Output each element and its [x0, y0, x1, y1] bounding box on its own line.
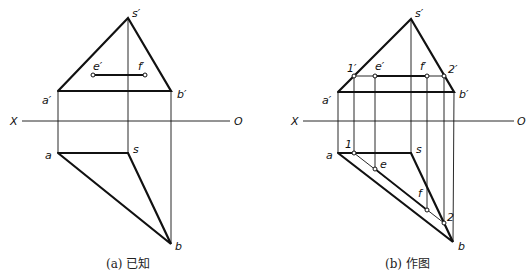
front-view-triangle	[338, 19, 454, 92]
label-2: 2	[447, 211, 454, 224]
label-a: a	[326, 149, 333, 162]
point-e-prime	[373, 74, 377, 78]
label-a: a	[45, 149, 52, 162]
point-1	[352, 151, 356, 155]
label-2-prime: 2′	[448, 63, 458, 76]
label-s-prime: s′	[415, 7, 424, 20]
label-s: s	[416, 143, 422, 156]
label-f: f	[418, 187, 424, 200]
label-b-prime: b′	[459, 88, 469, 101]
label-e-prime: e′	[93, 60, 103, 73]
label-a-prime: a′	[42, 94, 52, 107]
label-e: e	[380, 158, 387, 171]
label-e-prime: e′	[375, 60, 385, 73]
axis-label-o: O	[234, 115, 243, 128]
top-view-triangle	[58, 153, 171, 244]
point-f-prime	[425, 74, 429, 78]
label-f-prime: f′	[420, 60, 427, 73]
point-2-prime	[442, 74, 446, 78]
axis-label-x: X	[9, 115, 18, 128]
label-b-prime: b′	[177, 88, 187, 101]
label-b: b	[175, 240, 182, 253]
label-s: s	[133, 143, 139, 156]
top-view-triangle	[338, 153, 453, 242]
point-e	[373, 167, 377, 171]
axis-label-x: X	[290, 115, 299, 128]
point-f	[425, 208, 429, 212]
caption-construction: (b) 作图	[385, 257, 430, 271]
caption-given: (a) 已知	[106, 257, 150, 271]
label-f-prime: f′	[138, 60, 145, 73]
point-e-prime	[91, 73, 95, 77]
panel-given: X O s′ a′ b′ e′ f′ a s b (a) 已知	[9, 7, 243, 271]
label-1: 1	[345, 138, 352, 151]
label-s-prime: s′	[132, 7, 141, 20]
point-2	[442, 221, 446, 225]
label-a-prime: a′	[322, 94, 332, 107]
axis-label-o: O	[517, 115, 526, 128]
panel-construction: X O s′ a′ b′ 1′ e′ f′ 2′	[290, 7, 526, 271]
point-f-prime	[143, 73, 147, 77]
projection-diagram: X O s′ a′ b′ e′ f′ a s b (a) 已知 X O	[0, 0, 528, 276]
label-b: b	[458, 240, 465, 253]
label-1-prime: 1′	[347, 62, 357, 75]
front-view-triangle	[58, 18, 171, 91]
